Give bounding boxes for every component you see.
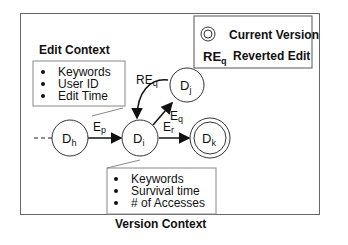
node-dh: Dh (52, 120, 88, 156)
node-dk-current: Dk (190, 118, 230, 158)
svg-text:Current Version: Current Version (229, 28, 319, 42)
legend: Current Version REq Reverted Edit (194, 16, 319, 68)
svg-text:Reverted Edit: Reverted Edit (233, 49, 310, 63)
svg-text:Eq: Eq (170, 109, 183, 124)
svg-text:Version Context: Version Context (115, 217, 206, 231)
svg-text:REq: REq (136, 73, 158, 88)
svg-text:Ep: Ep (93, 120, 106, 135)
svg-text:# of Accesses: # of Accesses (131, 196, 205, 210)
svg-text:Edit Time: Edit Time (58, 89, 108, 103)
version-context: Keywords Survival time # of Accesses Ver… (107, 160, 216, 231)
node-dj: Dj (170, 68, 204, 102)
edit-context: Edit Context Keywords User ID Edit Time (33, 43, 125, 116)
node-di: Di (122, 120, 158, 156)
version-graph: Current Version REq Reverted Edit Edit C… (0, 0, 348, 245)
svg-text:Edit Context: Edit Context (39, 43, 110, 57)
